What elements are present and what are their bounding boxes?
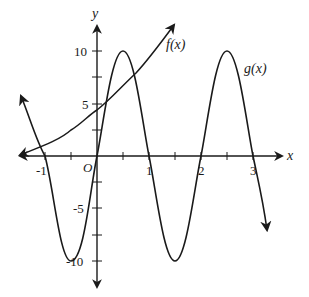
x-tick-label: -1: [36, 163, 47, 178]
origin-label: O: [83, 160, 93, 175]
y-tick-label: -5: [73, 201, 84, 216]
f-label: f(x): [166, 37, 186, 53]
y-tick-label: -10: [66, 254, 83, 269]
y-tick-label: 5: [82, 97, 89, 112]
x-axis-label: x: [286, 148, 294, 163]
y-axis-label: y: [90, 6, 99, 21]
g-label: g(x): [244, 61, 267, 77]
y-tick-label: 10: [74, 44, 87, 59]
chart: -1 1 2 3 10 5 -5 -10 O x y f(x) g(x): [0, 0, 309, 297]
